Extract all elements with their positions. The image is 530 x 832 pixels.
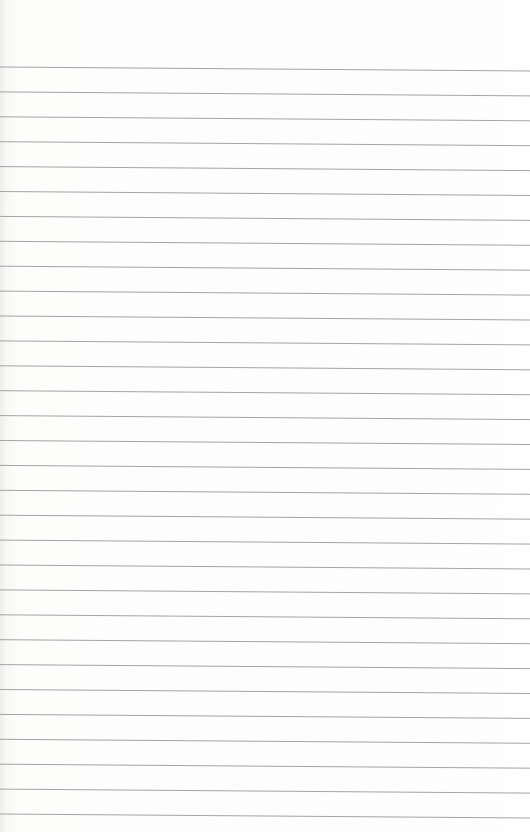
ruled-line	[0, 391, 530, 395]
ruled-line	[0, 665, 530, 669]
ruled-line	[0, 291, 530, 295]
ruled-line	[0, 490, 530, 494]
ruled-line	[0, 590, 530, 594]
ruled-line	[0, 540, 530, 544]
ruled-line	[0, 739, 530, 743]
ruled-line	[0, 67, 530, 71]
ruled-line	[0, 465, 530, 469]
ruled-lines	[0, 0, 530, 832]
ruled-line	[0, 167, 530, 171]
ruled-line	[0, 515, 530, 519]
ruled-line	[0, 366, 530, 370]
ruled-line	[0, 266, 530, 270]
ruled-line	[0, 640, 530, 644]
ruled-line	[0, 690, 530, 694]
ruled-line	[0, 192, 530, 196]
ruled-line	[0, 714, 530, 718]
ruled-line	[0, 241, 530, 245]
ruled-line	[0, 441, 530, 445]
ruled-line	[0, 216, 530, 220]
ruled-line	[0, 316, 530, 320]
ruled-line	[0, 789, 530, 793]
ruled-line	[0, 142, 530, 146]
ruled-line	[0, 341, 530, 345]
ruled-line	[0, 764, 530, 768]
ruled-line	[0, 814, 530, 818]
ruled-line	[0, 92, 530, 96]
ruled-line	[0, 416, 530, 420]
lined-paper	[0, 0, 530, 832]
ruled-line	[0, 565, 530, 569]
ruled-line	[0, 117, 530, 121]
ruled-line	[0, 615, 530, 619]
